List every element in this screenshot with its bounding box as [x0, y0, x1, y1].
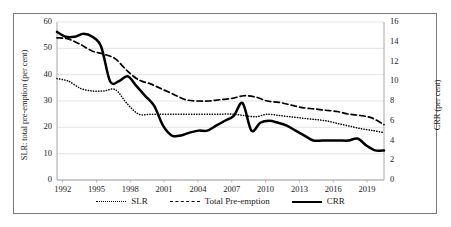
y-tick-left-50: 50 [30, 42, 52, 52]
legend-swatch-icon [170, 198, 200, 204]
y-tick-right-4: 4 [390, 135, 412, 145]
y-tick-right-6: 6 [390, 115, 412, 125]
series-line-crr [57, 32, 384, 151]
legend-item-total-pre-emption[interactable]: Total Pre-emption [170, 196, 270, 206]
chart-legend: SLRTotal Pre-emptionCRR [57, 196, 384, 206]
legend-item-slr[interactable]: SLR [96, 196, 148, 206]
y-axis-title-left: SLR: total pre-emption (per cent) [19, 40, 29, 170]
gridlines [57, 22, 384, 180]
y-tick-left-0: 0 [30, 174, 52, 184]
legend-label: SLR [131, 196, 148, 206]
y-tick-left-20: 20 [30, 121, 52, 131]
y-axis-title-right: CRR (per cent) [432, 40, 442, 170]
legend-item-crr[interactable]: CRR [292, 196, 345, 206]
y-tick-left-30: 30 [30, 95, 52, 105]
y-tick-left-40: 40 [30, 69, 52, 79]
chart-figure: 0102030405060024681012141619921995199820… [0, 0, 451, 227]
y-tick-right-10: 10 [390, 75, 412, 85]
axis-lines [57, 22, 384, 183]
y-tick-right-12: 12 [390, 56, 412, 66]
legend-swatch-icon [96, 198, 126, 204]
legend-label: Total Pre-emption [205, 196, 270, 206]
y-tick-right-8: 8 [390, 95, 412, 105]
legend-label: CRR [327, 196, 345, 206]
legend-swatch-icon [292, 198, 322, 204]
y-tick-left-60: 60 [30, 16, 52, 26]
data-series-group [57, 32, 384, 151]
y-tick-right-0: 0 [390, 174, 412, 184]
series-line-total-pre-emption [57, 38, 384, 125]
y-tick-right-16: 16 [390, 16, 412, 26]
y-tick-left-10: 10 [30, 148, 52, 158]
plot-area: 0102030405060024681012141619921995199820… [0, 0, 451, 227]
x-tick-2019: 2019 [347, 184, 387, 194]
y-tick-right-14: 14 [390, 36, 412, 46]
y-tick-right-2: 2 [390, 154, 412, 164]
